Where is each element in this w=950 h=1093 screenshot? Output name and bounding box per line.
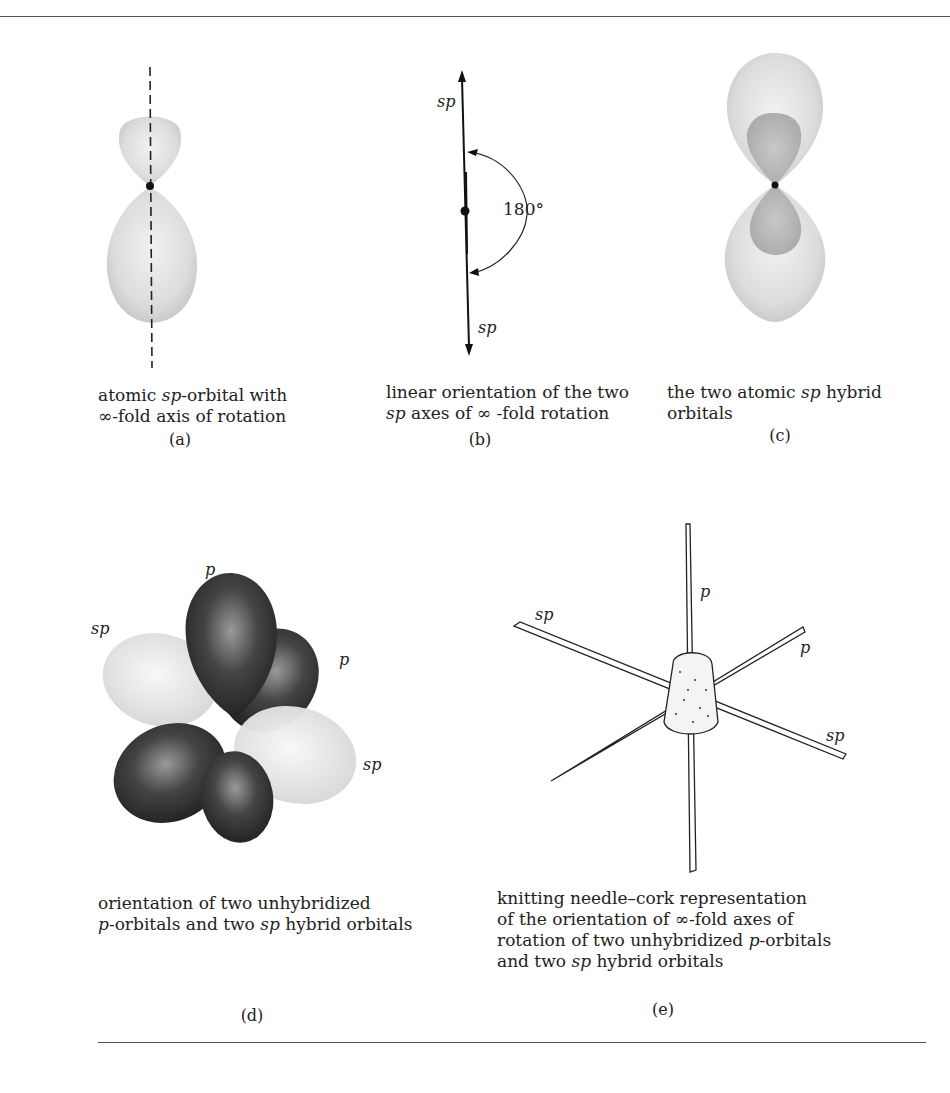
caption-c: the two atomic sp hybrid orbitals xyxy=(667,382,882,424)
panel-letter-c: (c) xyxy=(760,426,800,445)
needle-label-sp-left: sp xyxy=(535,605,553,624)
panel-letter-e: (e) xyxy=(643,1000,683,1019)
panel-letter-a: (a) xyxy=(160,430,200,449)
caption-b: linear orientation of the two sp axes of… xyxy=(386,382,629,424)
panel-letter-b: (b) xyxy=(460,430,500,449)
needle-label-sp-right: sp xyxy=(826,726,844,745)
needle-label-p-top: p xyxy=(700,582,710,601)
caption-a: atomic sp-orbital with ∞-fold axis of ro… xyxy=(98,385,287,427)
needle-label-p-right: p xyxy=(800,638,810,657)
caption-d: orientation of two unhybridized p-orbita… xyxy=(98,893,412,935)
panel-letter-d: (d) xyxy=(232,1006,272,1025)
caption-e: knitting needle–cork representation of t… xyxy=(497,888,831,972)
